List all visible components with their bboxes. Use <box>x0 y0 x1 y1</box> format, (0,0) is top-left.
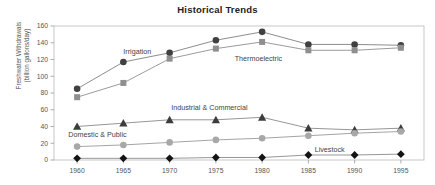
y-tick-label: 60 <box>40 106 48 113</box>
data-point-marker <box>351 41 358 48</box>
x-tick-label: 1985 <box>301 167 316 174</box>
data-point-marker <box>351 130 358 137</box>
y-tick-label: 160 <box>37 22 49 29</box>
y-tick-label: 100 <box>37 73 49 80</box>
data-point-marker <box>259 135 266 142</box>
y-tick-label: 120 <box>37 56 49 63</box>
series-label-industrial-commercial: Industrial & Commercial <box>171 103 248 112</box>
data-point-marker <box>213 46 219 52</box>
data-point-marker <box>398 128 405 135</box>
data-point-marker <box>352 47 358 53</box>
x-tick-label: 1995 <box>393 167 408 174</box>
x-tick-label: 1965 <box>116 167 131 174</box>
data-point-marker <box>120 59 127 66</box>
data-point-marker <box>305 41 312 48</box>
series-label-livestock: Livestock <box>315 145 345 154</box>
data-point-marker <box>398 45 404 51</box>
data-point-marker <box>166 50 173 57</box>
y-tick-label: 0 <box>44 156 48 163</box>
data-point-marker <box>74 143 81 150</box>
data-point-marker <box>305 47 311 53</box>
y-tick-label: 20 <box>40 140 48 147</box>
series-label-domestic-public: Domestic & Public <box>68 130 127 139</box>
data-point-marker <box>166 139 173 146</box>
x-tick-label: 1990 <box>347 167 362 174</box>
x-tick-label: 1960 <box>70 167 85 174</box>
x-axis-ticks: 19601965197019751980198519901995 <box>70 160 409 174</box>
data-point-marker <box>259 29 266 36</box>
data-point-marker <box>259 39 265 45</box>
line-chart-plot: 020406080100120140160 196019651970197519… <box>0 0 435 185</box>
plot-frame <box>54 26 424 160</box>
x-tick-label: 1980 <box>255 167 270 174</box>
y-tick-label: 140 <box>37 39 49 46</box>
y-axis-ticks: 020406080100120140160 <box>37 22 54 163</box>
data-point-marker <box>120 142 127 149</box>
data-point-marker <box>120 80 126 86</box>
data-point-marker <box>74 94 80 100</box>
chart-figure: Historical Trends Freshwater Withdrawals… <box>0 0 435 185</box>
x-tick-label: 1970 <box>162 167 177 174</box>
data-point-marker <box>305 132 312 139</box>
data-point-marker <box>213 37 220 44</box>
data-point-marker <box>213 137 220 144</box>
data-point-marker <box>167 56 173 62</box>
data-point-marker <box>74 86 81 93</box>
series-label-irrigation: Irrigation <box>123 47 151 56</box>
x-tick-label: 1975 <box>208 167 223 174</box>
y-tick-label: 40 <box>40 123 48 130</box>
series-label-thermoelectric: Thermoelectric <box>235 54 283 63</box>
y-tick-label: 80 <box>40 89 48 96</box>
